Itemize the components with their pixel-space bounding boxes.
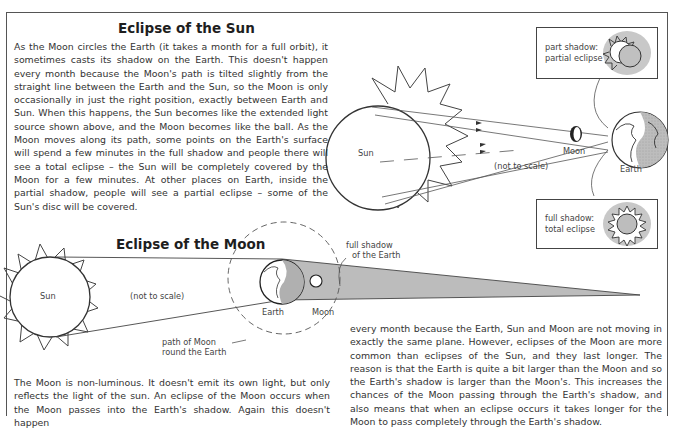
lunar-eclipse-title: Eclipse of the Moon	[116, 236, 265, 252]
solar-earth-icon	[612, 112, 668, 168]
solar-eclipse-text: As the Moon circles the Earth (it takes …	[14, 40, 328, 213]
total-inset-label-1: full shadow:	[545, 213, 594, 224]
lunar-scale-note: (not to scale)	[130, 291, 184, 301]
total-inset-label-2: total eclipse	[545, 224, 595, 235]
lunar-eclipse-text-left: The Moon is non-luminous. It doesn't emi…	[14, 376, 330, 429]
total-eclipse-inset: full shadow: total eclipse	[536, 199, 658, 249]
solar-scale-note: (not to scale)	[494, 161, 548, 171]
partial-inset-label-1: part shadow:	[545, 42, 598, 53]
lunar-moon-label: Moon	[312, 307, 334, 317]
solar-sun-icon	[326, 66, 468, 210]
solar-sun-label: Sun	[358, 148, 374, 158]
partial-inset-label-2: partial eclipse	[545, 53, 603, 64]
lunar-earth-label: Earth	[262, 307, 284, 317]
solar-moon-icon	[570, 126, 582, 142]
moon-path-label-line2: round the Earth	[162, 347, 226, 357]
solar-earth-label: Earth	[620, 164, 642, 174]
lunar-moon-icon	[310, 275, 322, 287]
partial-eclipse-inset: part shadow: partial eclipse	[536, 27, 658, 79]
solar-eclipse-title: Eclipse of the Sun	[118, 20, 255, 36]
moon-path-label-line1: path of Moon	[162, 337, 216, 347]
shadow-label-line2: of the Earth	[352, 250, 401, 260]
shadow-label-line1: full shadow	[346, 240, 393, 250]
lunar-earth-icon	[260, 260, 304, 304]
solar-moon-label: Moon	[563, 146, 585, 156]
lunar-sun-label: Sun	[40, 291, 56, 301]
total-eclipse-icon	[599, 200, 659, 250]
partial-eclipse-icon	[599, 28, 659, 78]
lunar-eclipse-text-right: every month because the Earth, Sun and M…	[350, 322, 662, 428]
